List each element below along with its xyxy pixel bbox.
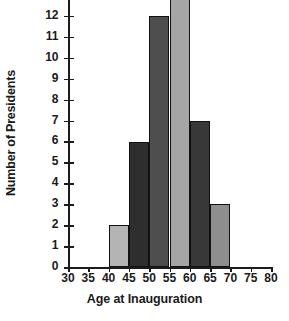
y-axis-tick-label-wrap: 7	[64, 121, 74, 123]
y-axis-tick-label: 6	[52, 133, 59, 148]
histogram-bar	[149, 16, 169, 267]
y-axis-tick-label: 12	[45, 8, 58, 23]
histogram-bar	[109, 225, 129, 267]
y-axis-tick-label-wrap: 8	[64, 100, 74, 102]
y-axis-tick-label-wrap: 2	[64, 225, 74, 227]
histogram-bar	[210, 204, 230, 267]
y-axis-tick-label: 5	[52, 154, 59, 169]
y-axis-tick-label-wrap: 10	[64, 58, 74, 60]
y-axis-tick-label-wrap: 6	[64, 141, 74, 143]
y-axis-title: Number of Presidents	[0, 0, 22, 266]
y-axis-tick-label: 11	[46, 29, 59, 44]
y-axis-tick-label: 8	[52, 92, 59, 107]
y-axis-tick-label-wrap: 9	[64, 79, 74, 81]
histogram-bar	[190, 121, 210, 267]
y-axis-line	[68, 0, 70, 267]
plot-area: 0123456789101112 3035404550556065707580	[68, 0, 271, 267]
y-axis-tick-label-wrap: 4	[64, 183, 74, 185]
y-axis-tick-label: 7	[52, 113, 59, 128]
y-axis-tick-label: 3	[52, 196, 59, 211]
y-axis-tick-label: 10	[45, 50, 58, 65]
x-axis-title: Age at Inauguration	[0, 292, 289, 306]
histogram-bar	[170, 0, 190, 267]
y-axis-tick-label: 4	[52, 175, 59, 190]
x-axis-tick-label: 80	[258, 271, 284, 285]
y-axis-tick-label-wrap: 12	[64, 16, 74, 18]
y-axis-tick-label-wrap: 5	[64, 162, 74, 164]
histogram-bar	[129, 142, 149, 268]
y-axis-tick-label: 9	[52, 71, 59, 86]
y-axis-tick-label-wrap: 3	[64, 204, 74, 206]
histogram-figure: Number of Presidents 0123456789101112 30…	[0, 0, 289, 321]
y-axis-tick-label-wrap: 11	[64, 37, 74, 39]
y-axis-tick-label-wrap: 1	[64, 246, 74, 248]
y-axis-tick-label: 1	[52, 238, 59, 253]
y-axis-tick-label: 2	[52, 217, 59, 232]
